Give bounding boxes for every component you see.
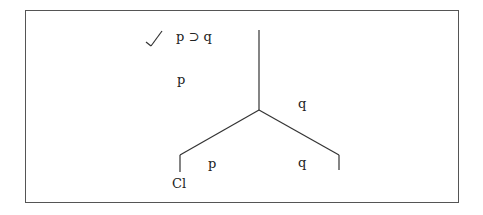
closure-mark: Cl (172, 177, 186, 190)
check-mark-icon (146, 42, 151, 46)
right-branch-q: q (298, 156, 306, 169)
left-branch-p: p (208, 157, 216, 170)
right-branch-line (259, 110, 339, 155)
tree-lines (0, 0, 483, 215)
stacked-p: p (177, 73, 185, 86)
left-branch-line (180, 110, 259, 155)
stacked-q: q (298, 97, 306, 110)
premise-formula: p ⊃ q (176, 30, 212, 43)
